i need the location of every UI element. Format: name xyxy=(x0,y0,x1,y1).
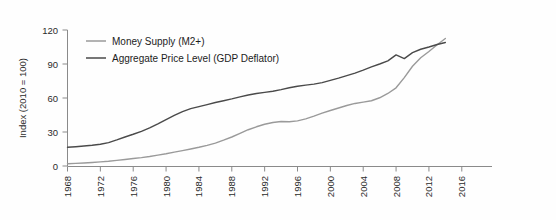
x-tick-label: 1980 xyxy=(161,176,172,197)
line-chart: 0306090120 19681972197619801984198819921… xyxy=(0,0,556,220)
y-tick-label: 120 xyxy=(42,25,58,36)
x-tick-label: 1996 xyxy=(292,176,303,197)
chart-figure: 0306090120 19681972197619801984198819921… xyxy=(0,0,556,220)
x-tick-label: 2012 xyxy=(423,176,434,197)
y-tick-label: 90 xyxy=(47,59,58,70)
legend-label-1: Aggregate Price Level (GDP Deflator) xyxy=(112,53,279,64)
x-axis: 1968197219761980198419881992199620002004… xyxy=(62,167,492,198)
legend-label-0: Money Supply (M2+) xyxy=(112,36,205,47)
x-tick-label: 1972 xyxy=(95,176,106,197)
y-tick-label: 60 xyxy=(47,93,58,104)
y-axis-title: Index (2010 = 100) xyxy=(17,58,28,138)
x-tick-label: 2000 xyxy=(325,176,336,197)
x-tick-label: 1988 xyxy=(226,176,237,197)
y-tick-label: 30 xyxy=(47,127,58,138)
chart-legend: Money Supply (M2+)Aggregate Price Level … xyxy=(86,36,279,64)
x-tick-label: 1984 xyxy=(193,176,204,197)
y-tick-label: 0 xyxy=(53,161,58,172)
x-tick-label: 1976 xyxy=(128,176,139,197)
x-tick-label: 2008 xyxy=(391,176,402,197)
y-axis: 0306090120 xyxy=(42,25,67,172)
x-tick-label: 2016 xyxy=(456,176,467,197)
x-tick-label: 1992 xyxy=(259,176,270,197)
x-tick-label: 2004 xyxy=(358,176,369,197)
x-tick-label: 1968 xyxy=(62,176,73,197)
